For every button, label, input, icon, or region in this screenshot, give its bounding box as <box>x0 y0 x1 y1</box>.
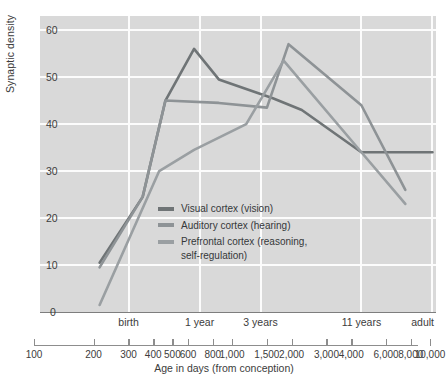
x-tick-label: 500 <box>164 349 181 360</box>
era-label: birth <box>118 316 138 328</box>
legend-label: Prefrontal cortex (reasoning, self-regul… <box>181 235 307 262</box>
x-tick-mark <box>267 339 268 346</box>
x-tick-mark <box>34 339 35 346</box>
legend-label: Auditory cortex (hearing) <box>181 219 291 232</box>
x-tick-label: 300 <box>120 349 137 360</box>
y-tick-label: 0 <box>50 306 56 318</box>
legend-swatch-icon <box>158 240 174 244</box>
x-axis-line <box>34 345 418 346</box>
x-tick-mark <box>351 339 352 346</box>
x-tick-label: 3,000 <box>314 349 339 360</box>
x-tick-mark <box>213 339 214 346</box>
x-tick-label: 600 <box>180 349 197 360</box>
x-tick-mark <box>128 339 129 346</box>
legend-item[interactable]: Visual cortex (vision) <box>158 202 307 215</box>
x-axis-title: Age in days (from conception) <box>0 362 448 374</box>
synaptic-density-chart: Synaptic density 0102030405060 Visual co… <box>0 0 448 381</box>
chart-legend: Visual cortex (vision)Auditory cortex (h… <box>158 202 307 265</box>
era-label: 1 year <box>185 316 214 328</box>
plot-area: 0102030405060 Visual cortex (vision)Audi… <box>40 16 436 312</box>
legend-label: Visual cortex (vision) <box>181 202 273 215</box>
legend-item[interactable]: Prefrontal cortex (reasoning, self-regul… <box>158 235 307 262</box>
legend-swatch-icon <box>158 207 174 211</box>
x-tick-mark <box>232 339 233 346</box>
legend-swatch-icon <box>158 223 174 227</box>
x-tick-label: 200 <box>85 349 102 360</box>
x-axis-era-labels: birth1 year3 years11 yearsadult <box>40 312 436 333</box>
x-tick-label: 2,000 <box>279 349 304 360</box>
x-tick-label: 1,000 <box>219 349 244 360</box>
y-tick-label: 50 <box>46 71 58 83</box>
era-label: 11 years <box>342 316 382 328</box>
y-tick-label: 60 <box>46 24 58 36</box>
y-axis-title: Synaptic density <box>4 0 16 124</box>
x-tick-label: 10,000 <box>415 349 446 360</box>
era-label: adult <box>411 316 434 328</box>
x-tick-mark <box>94 339 95 346</box>
x-tick-mark <box>411 339 412 346</box>
x-tick-mark <box>326 339 327 346</box>
x-tick-mark <box>172 339 173 346</box>
x-tick-mark <box>386 339 387 346</box>
y-tick-label: 30 <box>46 165 58 177</box>
x-tick-mark <box>153 339 154 346</box>
x-tick-mark <box>292 339 293 346</box>
x-tick-mark <box>188 339 189 346</box>
y-tick-label: 40 <box>46 118 58 130</box>
era-label: 3 years <box>243 316 277 328</box>
y-tick-label: 20 <box>46 212 58 224</box>
x-tick-label: 4,000 <box>339 349 364 360</box>
x-tick-label: 100 <box>26 349 43 360</box>
legend-item[interactable]: Auditory cortex (hearing) <box>158 219 307 232</box>
series-lines <box>40 16 436 312</box>
y-tick-label: 10 <box>46 259 58 271</box>
x-tick-label: 6,000 <box>374 349 399 360</box>
x-tick-label: 400 <box>145 349 162 360</box>
x-tick-label: 1,500 <box>254 349 279 360</box>
x-tick-mark <box>430 339 431 346</box>
